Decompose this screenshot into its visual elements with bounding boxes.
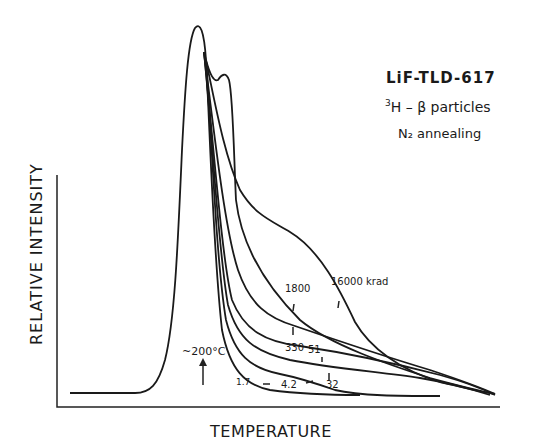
arrow-head-icon	[199, 358, 207, 366]
label-1.7: 1.7	[236, 377, 250, 387]
curve-base	[70, 26, 206, 393]
glow-curve-chart: LiF-TLD-617 3H – β particles N₂ annealin…	[0, 0, 542, 443]
tick-1800	[293, 304, 294, 311]
tick-16000	[338, 301, 339, 308]
label-330: 330	[285, 342, 304, 353]
label-16000krad: 16000 krad	[331, 276, 388, 287]
axes	[57, 175, 500, 407]
annotation-200c: ~200°C	[182, 345, 226, 358]
label-32: 32	[326, 379, 339, 390]
subtitle-particles: 3H – β particles	[385, 98, 491, 115]
subtitle-annealing: N₂ annealing	[398, 126, 481, 141]
label-51: 51	[308, 344, 321, 355]
x-axis-label: TEMPERATURE	[209, 422, 332, 441]
label-4.2: 4.2	[281, 379, 297, 390]
label-1800: 1800	[285, 283, 310, 294]
y-axis-label: RELATIVE INTENSITY	[27, 163, 46, 345]
chart-title: LiF-TLD-617	[386, 69, 496, 87]
